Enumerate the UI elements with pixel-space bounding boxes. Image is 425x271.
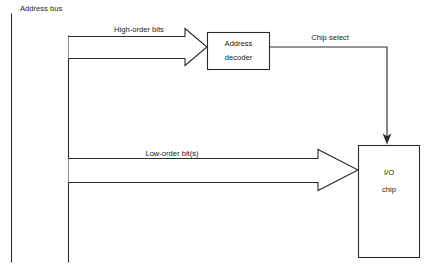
chip-select-line	[270, 47, 388, 137]
high-order-bits-label: High-order bits	[114, 25, 164, 34]
chip-select-label: Chip select	[311, 33, 349, 42]
address-bus-label: Address bus	[20, 4, 62, 13]
low-order-bits-label: Low-order bit(s)	[145, 149, 199, 158]
low-order-bits-arrow	[69, 150, 359, 191]
address-decoder-label-line1: Address	[225, 39, 253, 48]
high-order-bits-arrow	[69, 29, 208, 66]
address-decoding-diagram: Address bus High-order bits Address deco…	[0, 0, 425, 271]
io-chip-label-line2: chip	[382, 185, 396, 194]
diagram-canvas: Address bus High-order bits Address deco…	[0, 0, 425, 271]
address-decoder-label-line2: decoder	[225, 53, 253, 62]
io-chip-label-line1: I/O	[384, 168, 394, 177]
io-chip-box	[359, 146, 420, 258]
